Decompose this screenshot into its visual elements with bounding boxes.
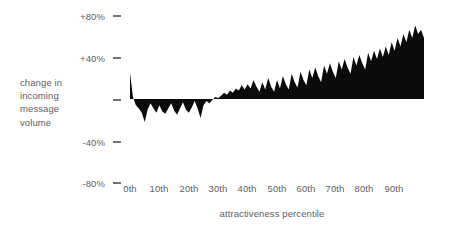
x-tick-label-90th: 90th xyxy=(385,183,404,194)
x-tick-label-20th: 20th xyxy=(180,183,199,194)
x-tick-label-0th: 0th xyxy=(123,183,137,194)
x-tick-label-60th: 60th xyxy=(297,183,316,194)
area-series-change-in-incoming-message-volume xyxy=(130,26,424,123)
plot-area xyxy=(0,0,449,233)
x-tick-label-30th: 30th xyxy=(209,183,228,194)
x-tick-label-10th: 10th xyxy=(150,183,169,194)
x-axis-title: attractiveness percentile xyxy=(220,208,325,219)
chart-figure: change in incoming message volume +80% +… xyxy=(0,0,449,233)
x-tick-label-40th: 40th xyxy=(238,183,257,194)
x-tick-label-80th: 80th xyxy=(355,183,374,194)
x-tick-label-50th: 50th xyxy=(268,183,287,194)
x-tick-label-70th: 70th xyxy=(326,183,345,194)
